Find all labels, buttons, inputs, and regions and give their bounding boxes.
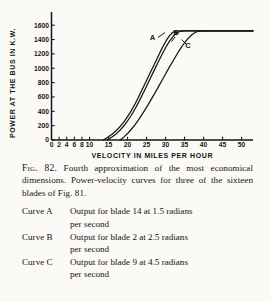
curve-label-a: A	[150, 33, 156, 42]
y-tick-label: 600	[38, 93, 49, 100]
x-tick-label: 15	[105, 141, 113, 148]
figure-chart-area: 0246810152025303540455002004006008001000…	[0, 0, 271, 160]
caption-paragraph: Fig. 82. Fourth approximation of the mos…	[22, 162, 253, 199]
curve-legend-name: Curve C	[22, 256, 70, 268]
y-tick-label: 1000	[34, 65, 49, 72]
y-tick-label: 800	[38, 79, 49, 86]
y-tick-label: 200	[38, 122, 49, 129]
curve-legend-continuation: per second	[22, 218, 253, 230]
curve-legend-line: Curve AOutput for blade 14 at 1.5 radian…	[22, 205, 253, 217]
x-tick-label: 35	[181, 141, 189, 148]
y-tick-label: 1400	[34, 36, 49, 43]
x-tick-label: 0	[50, 141, 54, 148]
curve-label-leader-a	[158, 33, 165, 38]
curve-legend-continuation: per second	[22, 268, 253, 280]
x-tick-label: 25	[143, 141, 151, 148]
power-velocity-chart: 0246810152025303540455002004006008001000…	[0, 0, 271, 160]
x-tick-label: 2	[57, 141, 61, 148]
x-tick-label: 20	[124, 141, 132, 148]
x-tick-label: 4	[65, 141, 69, 148]
curve-legend-name: Curve A	[22, 205, 70, 217]
curve-legend-description: Output for blade 2 at 2.5 radians	[70, 231, 253, 243]
figure-page: 0246810152025303540455002004006008001000…	[0, 0, 271, 302]
x-axis-title: VELOCITY IN MILES PER HOUR	[91, 152, 213, 159]
x-tick-label: 50	[238, 141, 246, 148]
y-tick-label: 1200	[34, 50, 49, 57]
y-tick-label: 400	[38, 108, 49, 115]
curve-legend-name: Curve B	[22, 231, 70, 243]
x-tick-label: 45	[219, 141, 227, 148]
x-tick-label: 10	[86, 141, 94, 148]
curve-legend-continuation: per second	[22, 243, 253, 255]
caption-figure-number: Fig. 82.	[22, 162, 57, 173]
curve-label-c: C	[185, 41, 191, 50]
curve-legend-item: Curve COutput for blade 9 at 4.5 radians…	[22, 256, 253, 281]
curve-label-b: B	[173, 28, 179, 37]
curve-legend-description: Output for blade 14 at 1.5 radians	[70, 205, 253, 217]
curve-legend-line: Curve COutput for blade 9 at 4.5 radians	[22, 256, 253, 268]
y-tick-label: 1600	[34, 22, 49, 29]
figure-caption: Fig. 82. Fourth approximation of the mos…	[0, 162, 271, 281]
x-tick-label: 40	[200, 141, 208, 148]
curve-legend-line: Curve BOutput for blade 2 at 2.5 radians	[22, 231, 253, 243]
y-axis-title: POWER AT THE BUS IN K.W.	[9, 28, 16, 138]
curve-legend-item: Curve BOutput for blade 2 at 2.5 radians…	[22, 231, 253, 256]
curve-legend-item: Curve AOutput for blade 14 at 1.5 radian…	[22, 205, 253, 230]
x-tick-label: 30	[162, 141, 170, 148]
caption-text: Fourth approximation of the most economi…	[22, 163, 253, 198]
y-tick-label: 0	[45, 136, 49, 143]
x-tick-label: 8	[80, 141, 84, 148]
curve-b	[107, 31, 253, 140]
curve-legend-description: Output for blade 9 at 4.5 radians	[70, 256, 253, 268]
x-tick-label: 6	[72, 141, 76, 148]
curve-legend-list: Curve AOutput for blade 14 at 1.5 radian…	[22, 205, 253, 280]
